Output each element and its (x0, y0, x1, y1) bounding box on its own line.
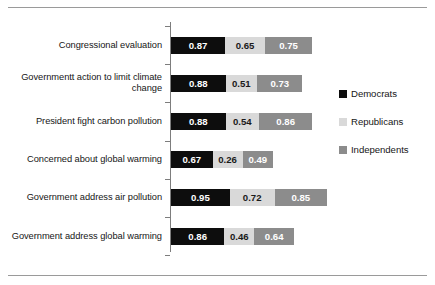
bar-value-label: 0.51 (232, 78, 251, 89)
bar-row: 0.670.260.49 (171, 151, 273, 168)
bar-segment: 0.49 (243, 151, 273, 168)
bar-segment: 0.46 (224, 228, 254, 245)
bar-segment: 0.86 (171, 228, 224, 245)
axis-tick (165, 141, 170, 142)
bar-value-label: 0.87 (189, 40, 208, 51)
bar-row: 0.880.540.86 (171, 113, 312, 130)
bar-segment: 0.88 (171, 75, 226, 92)
bar-segment: 0.64 (254, 228, 294, 245)
axis-tick (165, 64, 170, 65)
top-rule (8, 7, 427, 8)
axis-tick (165, 102, 170, 103)
category-label: Congressional evaluation (4, 40, 162, 51)
category-label: Concerned about global warming (4, 154, 162, 165)
axis-tick (165, 217, 170, 218)
chart-legend: DemocratsRepublicansIndependents (339, 88, 433, 172)
legend-swatch-icon (339, 146, 347, 154)
bar-value-label: 0.65 (236, 40, 255, 51)
bar-value-label: 0.73 (270, 78, 289, 89)
bar-row: 0.870.650.75 (171, 37, 312, 54)
bar-segment: 0.73 (257, 75, 302, 92)
bar-segment: 0.85 (275, 189, 328, 206)
bar-row: 0.950.720.85 (171, 189, 327, 206)
category-label: Government address air pollution (4, 192, 162, 203)
category-axis-labels: Congressional evaluationGovernmentt acti… (4, 18, 167, 266)
bar-segment: 0.54 (226, 113, 259, 130)
bar-segment: 0.65 (225, 37, 265, 54)
bar-value-label: 0.85 (292, 192, 311, 203)
bar-value-label: 0.26 (218, 154, 237, 165)
legend-swatch-icon (339, 118, 347, 126)
axis-tick (165, 255, 170, 256)
bar-value-label: 0.67 (182, 154, 201, 165)
bar-segment: 0.51 (226, 75, 258, 92)
legend-label: Democrats (351, 88, 397, 99)
bar-segment: 0.87 (171, 37, 225, 54)
axis-tick (165, 26, 170, 27)
bottom-rule (8, 275, 427, 276)
bar-segment: 0.26 (213, 151, 243, 168)
bar-value-label: 0.54 (233, 116, 252, 127)
category-label: Government address global warming (4, 231, 162, 242)
bar-segment: 0.67 (171, 151, 213, 168)
legend-item[interactable]: Independents (339, 144, 433, 155)
legend-label: Republicans (351, 116, 403, 127)
legend-label: Independents (351, 144, 409, 155)
bar-value-label: 0.88 (189, 78, 208, 89)
bar-segment: 0.88 (171, 113, 226, 130)
bar-segment: 0.72 (230, 189, 275, 206)
bar-value-label: 0.86 (276, 116, 295, 127)
legend-swatch-icon (339, 90, 347, 98)
legend-item[interactable]: Democrats (339, 88, 433, 99)
bar-value-label: 0.88 (189, 116, 208, 127)
bar-value-label: 0.46 (230, 231, 249, 242)
bar-value-label: 0.75 (279, 40, 298, 51)
figure-container: Congressional evaluationGovernmentt acti… (0, 0, 435, 285)
bar-value-label: 0.72 (243, 192, 262, 203)
bar-row: 0.860.460.64 (171, 228, 294, 245)
legend-item[interactable]: Republicans (339, 116, 433, 127)
bar-value-label: 0.86 (188, 231, 207, 242)
category-label: President fight carbon pollution (4, 116, 162, 127)
bar-value-label: 0.49 (248, 154, 267, 165)
bar-segment: 0.86 (259, 113, 312, 130)
category-label: Governmentt action to limit climate chan… (4, 72, 162, 95)
bar-row: 0.880.510.73 (171, 75, 302, 92)
bar-value-label: 0.95 (191, 192, 210, 203)
bar-value-label: 0.64 (265, 231, 284, 242)
bar-segment: 0.75 (265, 37, 312, 54)
bar-segment: 0.95 (171, 189, 230, 206)
axis-tick (165, 179, 170, 180)
